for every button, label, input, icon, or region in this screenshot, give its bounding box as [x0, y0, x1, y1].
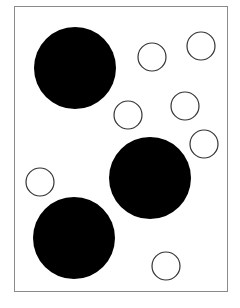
large-filled-circle: [33, 197, 115, 279]
small-outline-circle: [171, 92, 199, 120]
small-outline-circle: [187, 32, 215, 60]
small-outline-circle: [114, 101, 142, 129]
large-filled-circle: [34, 27, 116, 109]
small-outline-circle: [152, 252, 180, 280]
small-outline-circle: [190, 130, 218, 158]
large-filled-circle: [109, 137, 191, 219]
small-outline-circle: [26, 168, 54, 196]
circles-canvas: [0, 0, 240, 308]
small-outline-circle: [138, 43, 166, 71]
